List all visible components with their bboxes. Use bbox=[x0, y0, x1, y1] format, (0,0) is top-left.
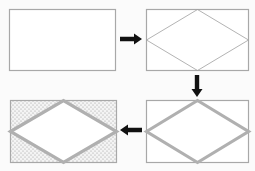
arrow-shape bbox=[192, 75, 203, 97]
step-2-thin-diamond bbox=[147, 10, 249, 71]
step-1-empty-rectangle bbox=[10, 10, 116, 71]
step-3-thick-diamond bbox=[147, 101, 249, 163]
step-frame bbox=[147, 10, 249, 71]
diagram-canvas bbox=[0, 0, 255, 171]
arrow-down-icon bbox=[192, 75, 203, 97]
step-frame bbox=[10, 10, 116, 71]
step-4-dotted-fill bbox=[11, 101, 117, 163]
arrow-right-icon bbox=[120, 34, 142, 45]
process-flow-diagram bbox=[0, 0, 255, 171]
arrow-shape bbox=[120, 125, 142, 136]
arrow-left-icon bbox=[120, 125, 142, 136]
arrow-shape bbox=[120, 34, 142, 45]
